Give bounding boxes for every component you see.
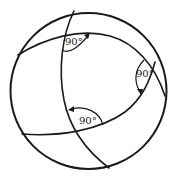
angle-label-top-left: 90° [65,36,83,47]
sphere-diagram: 90° 90° 90° [0,0,180,183]
arrowhead-icon [68,106,74,112]
great-circle-upper [18,33,165,96]
angle-marker-bottom: 90° [68,106,103,126]
angle-label-bottom: 90° [79,115,97,126]
angle-marker-top-left: 90° [62,33,90,51]
angle-label-right: 90° [136,68,154,79]
